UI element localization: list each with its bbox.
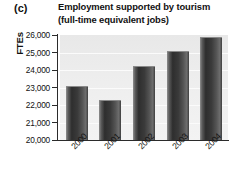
plot-area [60, 35, 228, 140]
y-axis-tick [52, 35, 57, 36]
bar-2004 [200, 37, 222, 140]
bar-2003 [167, 51, 189, 140]
y-axis-tick-label: 23,000 [6, 83, 50, 93]
chart-title-line-2: (full-time equivalent jobs) [58, 14, 240, 27]
y-axis-tick [52, 122, 57, 123]
y-axis-tick-labels: 26,00025,00024,00023,00022,00021,00020,0… [2, 0, 50, 180]
y-axis-tick-label: 24,000 [6, 65, 50, 75]
chart-title: Employment supported by tourism (full-ti… [58, 1, 240, 26]
y-axis-line [57, 34, 58, 141]
y-axis-tick-label: 21,000 [6, 118, 50, 128]
y-axis-tick [52, 87, 57, 88]
chart-title-line-1: Employment supported by tourism [58, 1, 240, 14]
y-axis-tick [52, 105, 57, 106]
y-axis-tick-label: 25,000 [6, 48, 50, 58]
y-axis-tick [52, 52, 57, 53]
y-axis-tick [52, 140, 57, 141]
y-axis-tick-label: 26,000 [6, 30, 50, 40]
chart-figure: (c) Employment supported by tourism (ful… [0, 0, 243, 180]
y-axis-tick [52, 70, 57, 71]
y-axis-tick-label: 20,000 [6, 135, 50, 145]
y-axis-tick-label: 22,000 [6, 100, 50, 110]
